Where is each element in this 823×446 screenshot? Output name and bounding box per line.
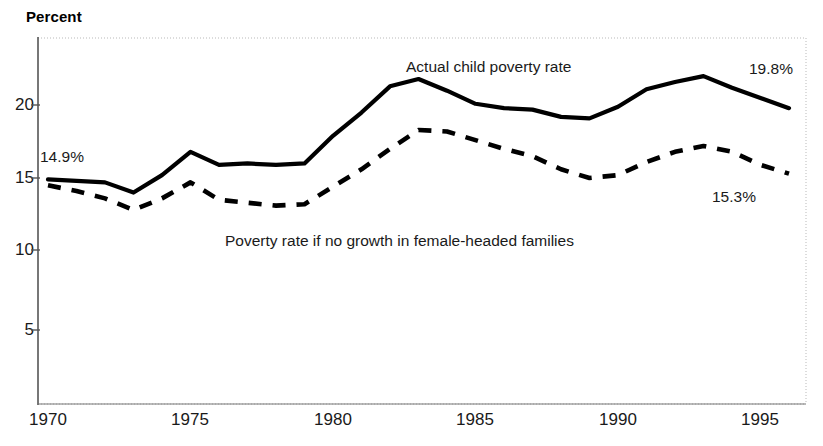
plot-area: [0, 0, 823, 446]
chart-figure: Percent 20 15 10 5 1970 1975 1980 1985 1…: [0, 0, 823, 446]
series-line-poverty-rate-no-growth: [48, 130, 789, 210]
series-line-actual-child-poverty-rate: [48, 76, 789, 192]
